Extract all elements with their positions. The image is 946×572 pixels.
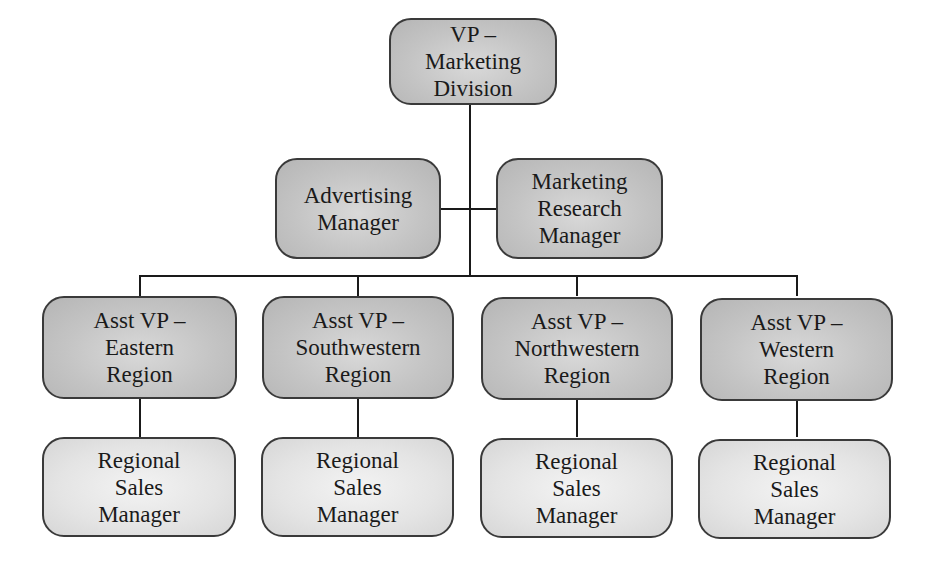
box-text-line: Region bbox=[106, 361, 172, 388]
vp-marketing-division-box: VP – Marketing Division bbox=[389, 18, 557, 105]
box-text-line: Manager bbox=[539, 222, 621, 249]
box-text-line: Asst VP – bbox=[312, 307, 404, 334]
box-text-line: Region bbox=[763, 363, 829, 390]
box-text-line: Sales bbox=[552, 475, 601, 502]
region-1-drop-line bbox=[139, 275, 141, 296]
box-text-line: Asst VP – bbox=[93, 307, 185, 334]
region-4-drop-line bbox=[796, 275, 798, 296]
box-text-line: Asst VP – bbox=[750, 309, 842, 336]
regions-bar-line bbox=[139, 275, 798, 277]
box-text-line: Region bbox=[325, 361, 391, 388]
region-4-manager-line bbox=[796, 398, 798, 437]
box-text-line: Asst VP – bbox=[531, 308, 623, 335]
box-text-line: VP – bbox=[450, 21, 496, 48]
box-text-line: Southwestern bbox=[295, 334, 420, 361]
box-text-line: Sales bbox=[770, 476, 819, 503]
regional-sales-manager-southwestern-box: Regional Sales Manager bbox=[261, 437, 454, 537]
box-text-line: Region bbox=[544, 362, 610, 389]
root-trunk-line bbox=[469, 104, 471, 277]
box-text-line: Division bbox=[433, 75, 512, 102]
box-text-line: Manager bbox=[536, 502, 618, 529]
box-text-line: Regional bbox=[316, 447, 399, 474]
staff-connector-line bbox=[440, 208, 497, 210]
box-text-line: Regional bbox=[535, 448, 618, 475]
box-text-line: Marketing bbox=[425, 48, 521, 75]
box-text-line: Northwestern bbox=[514, 335, 639, 362]
regional-sales-manager-eastern-box: Regional Sales Manager bbox=[42, 437, 236, 537]
region-2-drop-line bbox=[357, 275, 359, 296]
asst-vp-southwestern-box: Asst VP – Southwestern Region bbox=[262, 296, 454, 399]
asst-vp-western-box: Asst VP – Western Region bbox=[700, 298, 893, 401]
box-text-line: Eastern bbox=[105, 334, 174, 361]
box-text-line: Manager bbox=[317, 501, 399, 528]
box-text-line: Research bbox=[537, 195, 621, 222]
box-text-line: Sales bbox=[333, 474, 382, 501]
box-text-line: Advertising bbox=[304, 182, 413, 209]
region-1-manager-line bbox=[139, 398, 141, 437]
marketing-research-manager-box: Marketing Research Manager bbox=[496, 158, 663, 259]
region-3-manager-line bbox=[576, 398, 578, 437]
box-text-line: Marketing bbox=[532, 168, 628, 195]
asst-vp-eastern-box: Asst VP – Eastern Region bbox=[42, 296, 237, 399]
advertising-manager-box: Advertising Manager bbox=[275, 158, 441, 259]
box-text-line: Regional bbox=[97, 447, 180, 474]
regional-sales-manager-western-box: Regional Sales Manager bbox=[698, 439, 891, 539]
box-text-line: Regional bbox=[753, 449, 836, 476]
box-text-line: Western bbox=[759, 336, 834, 363]
box-text-line: Manager bbox=[317, 209, 399, 236]
regional-sales-manager-northwestern-box: Regional Sales Manager bbox=[480, 438, 673, 538]
box-text-line: Manager bbox=[754, 503, 836, 530]
box-text-line: Manager bbox=[98, 501, 180, 528]
region-2-manager-line bbox=[357, 398, 359, 437]
region-3-drop-line bbox=[576, 275, 578, 296]
box-text-line: Sales bbox=[115, 474, 164, 501]
org-chart: VP – Marketing Division Advertising Mana… bbox=[0, 0, 946, 572]
asst-vp-northwestern-box: Asst VP – Northwestern Region bbox=[481, 297, 673, 400]
